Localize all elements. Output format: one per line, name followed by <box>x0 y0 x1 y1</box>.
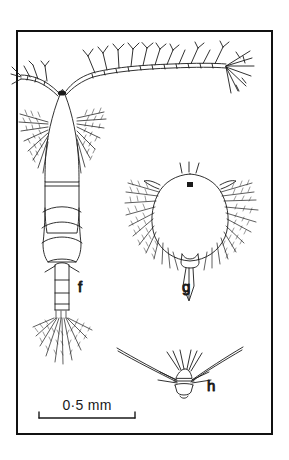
figure-h-label: h <box>207 377 215 394</box>
figure-g-label: g <box>182 278 190 295</box>
figure-g-eye-spot <box>187 182 193 187</box>
scale-bar-label: 0·5 mm <box>62 397 111 413</box>
illustration-plate: f <box>0 0 289 460</box>
plate-canvas: f <box>0 0 289 460</box>
figure-f-eye-spot <box>58 90 66 95</box>
